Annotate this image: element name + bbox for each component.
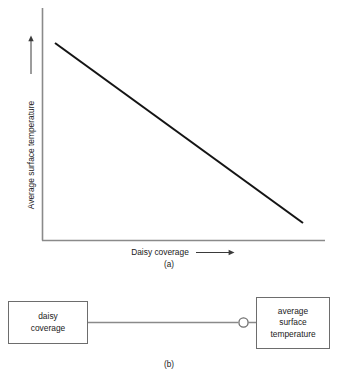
open-circle-icon: [239, 318, 248, 327]
panel-b-caption: (b): [0, 361, 338, 369]
node-average-surface-temperature: average surface temperature: [256, 297, 330, 349]
node-daisy-coverage-label: daisy coverage: [31, 311, 65, 334]
node-average-surface-temperature-label-line-2: surface: [279, 317, 306, 327]
right-arrow-icon: [196, 248, 236, 257]
node-average-surface-temperature-label: average surface temperature: [270, 306, 315, 341]
node-daisy-coverage-label-line-1: daisy: [38, 311, 58, 321]
x-axis-label: Daisy coverage: [42, 245, 325, 259]
line-chart-graphic: [0, 0, 338, 272]
up-arrow-icon: [26, 34, 36, 76]
chart-panel-a: Average surface temperature Daisy covera…: [0, 0, 338, 272]
node-daisy-coverage-label-line-2: coverage: [31, 323, 65, 333]
y-axis-label-text: Average surface temperature: [27, 101, 35, 209]
x-axis-label-text: Daisy coverage: [131, 248, 189, 256]
node-average-surface-temperature-label-line-1: average: [278, 306, 308, 316]
node-daisy-coverage: daisy coverage: [8, 301, 88, 344]
panel-a-caption: (a): [0, 261, 338, 269]
node-average-surface-temperature-label-line-3: temperature: [270, 329, 315, 339]
data-series-line: [55, 43, 303, 223]
